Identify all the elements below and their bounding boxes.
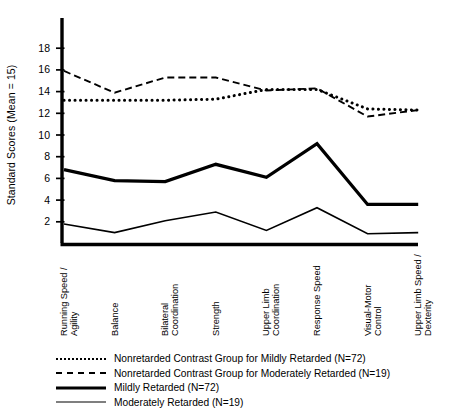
x-tick-label-line: Response Speed (312, 265, 322, 336)
series-line-2 (64, 144, 418, 205)
x-tick-label-line: Strength (211, 301, 221, 336)
y-tick-label: 12 (20, 108, 50, 118)
y-tick-label: 14 (20, 86, 50, 96)
chart-figure: Standard Scores (Mean = 15) 181614121086… (0, 0, 450, 420)
dotted-line-icon (54, 353, 108, 365)
legend-item: Moderately Retarded (N=19) (54, 396, 446, 409)
x-tick-label-line: Coordination (171, 284, 181, 336)
x-tick-label: Running Speed /Agility (59, 267, 80, 336)
dashed-line-icon (54, 367, 108, 379)
thick-solid-line-icon (54, 382, 108, 394)
x-tick-label-line: Agility (69, 267, 79, 336)
x-tick-label-line: Control (373, 285, 383, 336)
data-series-group (64, 71, 418, 234)
legend-item-label: Mildly Retarded (N=72) (114, 382, 219, 393)
legend-item-label: Nonretarded Contrast Group for Moderatel… (114, 368, 390, 379)
legend-item-label: Nonretarded Contrast Group for Mildly Re… (114, 353, 366, 364)
thin-solid-line-icon (54, 396, 108, 408)
x-tick-label: Strength (211, 301, 221, 336)
legend-item: Nonretarded Contrast Group for Moderatel… (54, 367, 446, 380)
x-tick-label-line: Running Speed / (59, 267, 69, 336)
y-tick-label: 6 (20, 173, 50, 183)
legend-item-label: Moderately Retarded (N=19) (114, 397, 243, 408)
x-tick-label: Visual-MotorControl (363, 285, 384, 336)
x-tick-label-line: Balance (110, 303, 120, 336)
series-line-1 (64, 71, 418, 117)
y-tick-label: 2 (20, 216, 50, 226)
y-tick-label: 10 (20, 130, 50, 140)
x-tick-label-line: Upper Limb Speed / (413, 254, 423, 336)
plot-area (0, 0, 450, 250)
x-tick-label: Upper Limb Speed /Dexterity (413, 254, 434, 336)
chart-legend: Nonretarded Contrast Group for Mildly Re… (54, 352, 446, 410)
x-tick-label-line: Dexterity (424, 254, 434, 336)
y-tick-label: 8 (20, 151, 50, 161)
x-tick-label: Balance (110, 303, 120, 336)
legend-item: Nonretarded Contrast Group for Mildly Re… (54, 352, 446, 365)
y-tick-label: 16 (20, 64, 50, 74)
series-line-3 (64, 208, 418, 234)
axis-lines (56, 18, 418, 245)
x-tick-label-line: Visual-Motor (363, 285, 373, 336)
y-tick-label: 18 (20, 43, 50, 53)
x-tick-label-line: Coordination (272, 284, 282, 336)
legend-item: Mildly Retarded (N=72) (54, 381, 446, 394)
x-tick-label: BilateralCoordination (160, 284, 181, 336)
x-tick-label-line: Upper Limb (261, 284, 271, 336)
x-tick-label: Upper LimbCoordination (261, 284, 282, 336)
x-tick-label-line: Bilateral (160, 284, 170, 336)
x-tick-label: Response Speed (312, 265, 322, 336)
y-tick-label: 4 (20, 195, 50, 205)
